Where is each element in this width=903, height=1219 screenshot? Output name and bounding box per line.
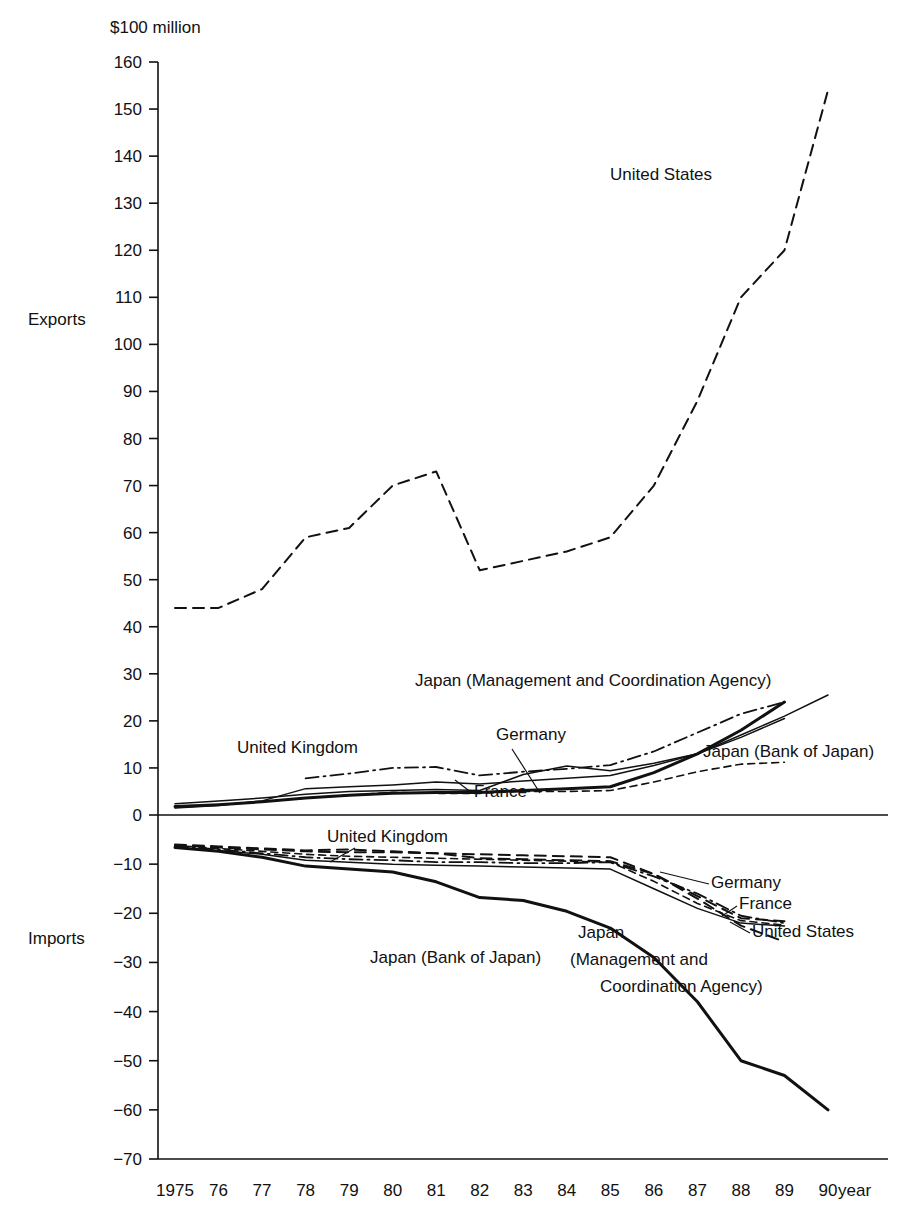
y-axis-unit-label: $100 million [110, 18, 201, 37]
ann-france-imports: France [739, 894, 792, 913]
y-axis-tick-label: −10 [113, 855, 142, 874]
ann-uk-imports: United Kingdom [327, 827, 448, 846]
x-axis-tick-label: 90 [819, 1181, 838, 1200]
y-axis-tick-label: 150 [114, 100, 142, 119]
y-axis-tick-label: −60 [113, 1101, 142, 1120]
ann-france-exports: France [474, 782, 527, 801]
ann-japan-mca-imports-1: Japan [578, 923, 624, 942]
y-axis-tick-label: −70 [113, 1150, 142, 1169]
y-axis-tick-label: 90 [123, 382, 142, 401]
y-axis-tick-label: 70 [123, 477, 142, 496]
y-axis-tick-label: 0 [133, 806, 142, 825]
ann-us-exports: United States [610, 165, 712, 184]
x-axis-tick-label: 85 [601, 1181, 620, 1200]
ann-uk-exports: United Kingdom [237, 738, 358, 757]
y-axis-tick-label: −20 [113, 904, 142, 923]
x-axis-tick-label: 84 [557, 1181, 576, 1200]
trade-line-chart: $100 million Exports Imports 16015014013… [0, 0, 903, 1219]
y-axis-tick-label: 160 [114, 53, 142, 72]
x-axis-tick-label: 81 [427, 1181, 446, 1200]
y-axis-tick-label: 10 [123, 759, 142, 778]
ann-us-imports: United States [752, 922, 854, 941]
section-label-exports: Exports [28, 310, 86, 329]
y-axis-tick-label: 30 [123, 665, 142, 684]
y-axis-tick-label: 140 [114, 147, 142, 166]
x-axis-tick-label: 79 [340, 1181, 359, 1200]
chart-background [0, 0, 903, 1219]
chart-canvas: $100 million Exports Imports 16015014013… [0, 0, 903, 1219]
x-axis-tick-label: 83 [514, 1181, 533, 1200]
ann-japan-mca-imports-3: Coordination Agency) [600, 977, 763, 996]
y-axis-tick-label: 20 [123, 712, 142, 731]
x-axis-tick-label: 82 [470, 1181, 489, 1200]
y-axis-tick-label: 100 [114, 335, 142, 354]
y-axis-tick-label: 40 [123, 618, 142, 637]
y-axis-tick-label: −50 [113, 1052, 142, 1071]
ann-japan-mca-imports-2: (Management and [570, 950, 708, 969]
y-axis-tick-label: 80 [123, 430, 142, 449]
x-axis-tick-label: 78 [296, 1181, 315, 1200]
ann-japan-mca-exports: Japan (Management and Coordination Agenc… [415, 671, 771, 690]
x-axis-tick-label: 77 [253, 1181, 272, 1200]
y-axis-tick-label: 50 [123, 571, 142, 590]
ann-germany-exports: Germany [496, 725, 566, 744]
y-axis-tick-label: 120 [114, 241, 142, 260]
x-axis-tick-label: 76 [209, 1181, 228, 1200]
x-axis-tick-label: 80 [383, 1181, 402, 1200]
section-label-imports: Imports [28, 929, 85, 948]
y-axis-tick-label: 130 [114, 194, 142, 213]
ann-boj-exports: Japan (Bank of Japan) [703, 742, 874, 761]
ann-boj-imports: Japan (Bank of Japan) [370, 948, 541, 967]
ann-germany-imports: Germany [711, 873, 781, 892]
y-axis-tick-label: 60 [123, 524, 142, 543]
x-axis-tick-label: 86 [644, 1181, 663, 1200]
y-axis-tick-label: −30 [113, 953, 142, 972]
x-axis-tick-label: 88 [731, 1181, 750, 1200]
x-axis-title: year [838, 1181, 871, 1200]
y-axis-tick-label: −40 [113, 1003, 142, 1022]
x-axis-tick-label: 87 [688, 1181, 707, 1200]
x-axis-tick-label: 1975 [156, 1181, 194, 1200]
y-axis-tick-label: 110 [115, 288, 142, 307]
x-axis-tick-label: 89 [775, 1181, 794, 1200]
